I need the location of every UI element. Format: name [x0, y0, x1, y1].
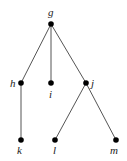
label-k: k: [17, 144, 23, 156]
labels: g h i j k l m: [10, 6, 118, 156]
node-m: [113, 137, 119, 143]
node-k: [18, 137, 24, 143]
label-l: l: [53, 144, 56, 156]
label-i: i: [49, 88, 52, 100]
label-g: g: [48, 6, 54, 18]
label-h: h: [10, 77, 16, 89]
edge-j-l: [55, 83, 86, 140]
node-j: [83, 80, 89, 86]
edge-g-h: [21, 24, 51, 83]
edges: [21, 24, 116, 140]
edge-g-j: [51, 24, 86, 83]
node-i: [48, 80, 54, 86]
nodes: [18, 21, 119, 143]
edge-j-m: [86, 83, 116, 140]
tree-diagram: g h i j k l m: [0, 0, 127, 161]
node-g: [48, 21, 54, 27]
label-m: m: [110, 144, 118, 156]
label-j: j: [89, 77, 94, 89]
node-l: [52, 137, 58, 143]
node-h: [18, 80, 24, 86]
